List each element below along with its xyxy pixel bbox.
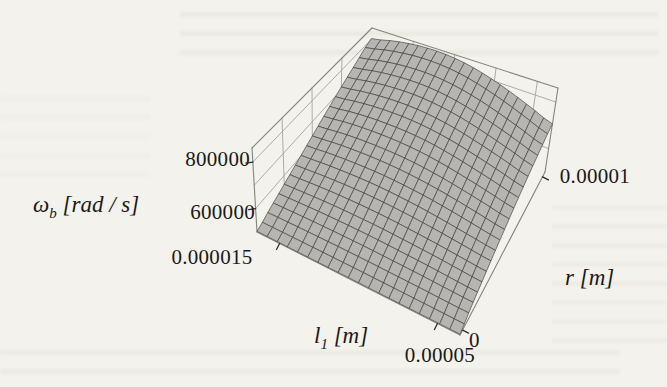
y-axis-unit: [m] [580,265,615,290]
x-axis-label: l1 [m] [314,323,368,353]
x-axis-unit: [m] [334,323,369,348]
scanned-page: ωb [rad / s] 800000 600000 l1 [m] 0.0000… [0,0,667,387]
z-tick-label-800000: 800000 [145,147,250,172]
z-axis-unit: [rad / s] [63,192,140,217]
z-axis-symbol: ω [33,192,49,217]
z-tick-label-600000: 600000 [150,200,255,225]
z-axis-label: ωb [rad / s] [33,192,139,222]
x-tick-label-0000015: 0.000015 [162,245,262,270]
y-tick-label-000001: 0.00001 [545,164,645,189]
z-axis-symbol-sub: b [49,205,57,221]
y-tick-label-0: 0 [469,328,480,353]
y-axis-symbol: r [565,265,574,290]
x-axis-symbol-sub: 1 [320,336,328,352]
y-axis-label: r [m] [565,265,614,291]
